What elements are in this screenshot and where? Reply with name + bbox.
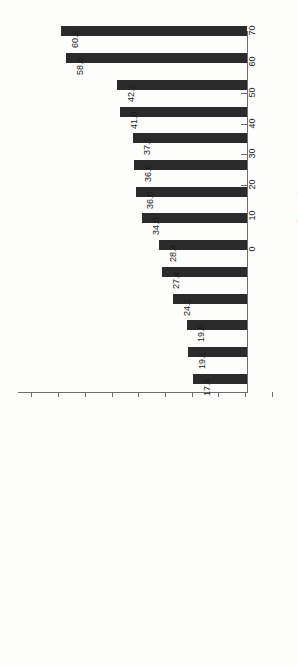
bar-value-label: 28.4 — [169, 245, 178, 263]
bar-value-label: 24.1 — [183, 298, 192, 316]
category-axis-tick — [58, 392, 59, 397]
value-axis-tick-label: 0 — [248, 246, 257, 251]
bar-value-label: 37.1 — [143, 138, 152, 156]
value-axis-tick-label: 40 — [248, 118, 257, 128]
category-axis-tick — [31, 392, 32, 397]
bar-value-label: 27.4 — [172, 271, 181, 289]
plot-area: 010203040506070 60.258.642.141.037.136.6… — [0, 0, 298, 665]
bar — [120, 107, 247, 117]
bar-value-label: 36.0 — [146, 191, 155, 209]
bar-value-label: 36.6 — [144, 164, 153, 182]
bar-value-label: 41.0 — [131, 111, 140, 129]
bar-value-label: 19.1 — [198, 351, 207, 369]
value-axis-title: Percentage — [297, 177, 298, 223]
category-axis-tick — [218, 392, 219, 397]
value-axis-tick-label: 30 — [248, 149, 257, 159]
value-axis-tick-label: 60 — [248, 56, 257, 66]
value-axis-tick-label: 50 — [248, 87, 257, 97]
value-axis-tick-label: 10 — [248, 211, 257, 221]
category-axis-tick — [192, 392, 193, 397]
bar-value-label: 17.4 — [203, 378, 212, 396]
category-axis-tick — [85, 392, 86, 397]
bar — [66, 53, 247, 63]
bar — [61, 26, 247, 36]
bar-value-label: 34.0 — [152, 218, 161, 236]
category-axis-tick — [138, 392, 139, 397]
bar-value-label: 60.2 — [71, 31, 80, 49]
value-axis-tick-label: 70 — [248, 25, 257, 35]
category-axis-tick — [272, 392, 273, 397]
bar-value-label: 42.1 — [127, 84, 136, 102]
bar-chart-figure: 010203040506070 60.258.642.141.037.136.6… — [0, 0, 298, 665]
category-axis-tick — [245, 392, 246, 397]
category-axis-tick — [112, 392, 113, 397]
bar-value-label: 19.5 — [197, 325, 206, 343]
bar — [117, 80, 247, 90]
value-axis-tick-label: 20 — [248, 180, 257, 190]
category-axis-line — [18, 392, 248, 393]
category-axis-tick — [165, 392, 166, 397]
bar-value-label: 58.6 — [76, 58, 85, 76]
